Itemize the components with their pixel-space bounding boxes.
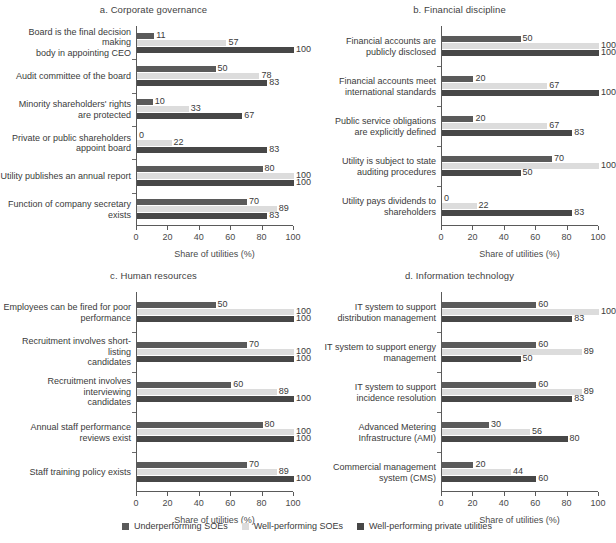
x-tick-label: 0 <box>133 232 138 242</box>
category-separator-tick <box>437 186 441 187</box>
x-tick <box>293 226 294 230</box>
x-axis-line <box>441 225 598 226</box>
x-tick-label: 80 <box>257 498 267 508</box>
category-separator-tick <box>437 332 441 333</box>
panel-c-human-resources: c. Human resources Share of utilities (%… <box>0 270 307 530</box>
bar <box>137 33 154 39</box>
bar <box>137 356 294 362</box>
bar <box>442 50 599 56</box>
bar-value-label: 0 <box>444 195 449 201</box>
category-label: Recruitment involves interviewing candid… <box>0 376 131 408</box>
panel-title: b. Financial discipline <box>305 4 614 15</box>
bar <box>442 130 572 136</box>
category-label: Public service obligations are explicitl… <box>304 116 436 137</box>
bar <box>137 73 259 79</box>
x-tick-label: 40 <box>499 498 509 508</box>
bar <box>137 349 294 355</box>
x-tick <box>598 492 599 496</box>
bar-value-label: 83 <box>269 212 279 218</box>
category-separator-tick <box>437 106 441 107</box>
bar <box>442 76 473 82</box>
bar <box>137 476 294 482</box>
bar <box>442 90 599 96</box>
bar <box>442 163 599 169</box>
bar <box>442 83 547 89</box>
bar-value-label: 100 <box>601 49 616 55</box>
bar <box>137 106 189 112</box>
bar-value-label: 11 <box>156 32 165 38</box>
bar-value-label: 0 <box>139 132 144 138</box>
bar <box>442 462 473 468</box>
x-tick <box>262 492 263 496</box>
y-axis-line <box>136 26 137 226</box>
x-tick-label: 20 <box>467 498 477 508</box>
x-tick <box>598 226 599 230</box>
legend-label: Well-performing private utilities <box>369 521 492 531</box>
bar <box>442 476 536 482</box>
panel-a-corporate-governance: a. Corporate governance Share of utiliti… <box>0 4 307 264</box>
x-tick-label: 100 <box>285 498 300 508</box>
x-tick-label: 80 <box>257 232 267 242</box>
category-separator-tick <box>437 452 441 453</box>
x-tick <box>441 226 442 230</box>
plot-area: Share of utilities (%) 020406080100Board… <box>136 26 293 226</box>
x-tick <box>504 492 505 496</box>
category-separator-tick <box>132 193 136 194</box>
bar-value-label: 89 <box>279 205 289 211</box>
x-axis-label: Share of utilities (%) <box>441 249 598 259</box>
bar <box>442 389 582 395</box>
bar-value-label: 89 <box>279 468 289 474</box>
bar <box>137 309 294 315</box>
chart-legend: Underperforming SOEsWell-performing SOEs… <box>0 521 614 531</box>
bar <box>442 302 536 308</box>
legend-item[interactable]: Underperforming SOEs <box>122 521 228 531</box>
x-tick-label: 100 <box>590 232 605 242</box>
x-tick-label: 20 <box>162 232 172 242</box>
bar-value-label: 83 <box>574 315 584 321</box>
bar <box>442 429 530 435</box>
bar <box>442 170 521 176</box>
bar-value-label: 80 <box>265 421 275 427</box>
bar <box>442 349 582 355</box>
category-label: Staff training policy exists <box>0 467 131 478</box>
category-label: Utility is subject to state auditing pro… <box>304 156 436 177</box>
bar-value-label: 70 <box>249 461 259 467</box>
bar-value-label: 60 <box>538 301 548 307</box>
bar-value-label: 57 <box>228 39 238 45</box>
bar <box>137 40 226 46</box>
category-label: Recruitment involves short-listing candi… <box>0 336 131 368</box>
category-separator-tick <box>437 372 441 373</box>
bar <box>137 180 294 186</box>
bar <box>442 203 477 209</box>
bar <box>442 342 536 348</box>
panel-d-information-technology: d. Information technology Share of utili… <box>305 270 614 530</box>
x-tick <box>293 492 294 496</box>
bar <box>137 80 267 86</box>
bar-value-label: 10 <box>155 98 165 104</box>
category-separator-tick <box>132 372 136 373</box>
x-tick <box>167 226 168 230</box>
bar <box>442 469 511 475</box>
bar <box>137 147 267 153</box>
x-tick-label: 60 <box>530 498 540 508</box>
legend-item[interactable]: Well-performing SOEs <box>242 521 343 531</box>
category-label: IT system to support energy management <box>304 342 436 363</box>
bar-value-label: 50 <box>218 301 228 307</box>
x-axis-line <box>441 491 598 492</box>
category-separator-tick <box>132 332 136 333</box>
bar-value-label: 60 <box>538 475 548 481</box>
x-tick <box>567 226 568 230</box>
category-label: Utility pays dividends to shareholders <box>304 196 436 217</box>
bar-value-label: 60 <box>538 381 548 387</box>
legend-item[interactable]: Well-performing private utilities <box>357 521 492 531</box>
bar-value-label: 83 <box>269 146 279 152</box>
category-label: Employees can be fired for poor performa… <box>0 302 131 323</box>
panel-b-financial-discipline: b. Financial discipline Share of utiliti… <box>305 4 614 264</box>
category-label: Annual staff performance reviews exist <box>0 422 131 443</box>
category-separator-tick <box>132 59 136 60</box>
x-tick-label: 80 <box>562 232 572 242</box>
panel-title: d. Information technology <box>305 270 614 281</box>
bar <box>137 199 247 205</box>
x-tick <box>199 492 200 496</box>
